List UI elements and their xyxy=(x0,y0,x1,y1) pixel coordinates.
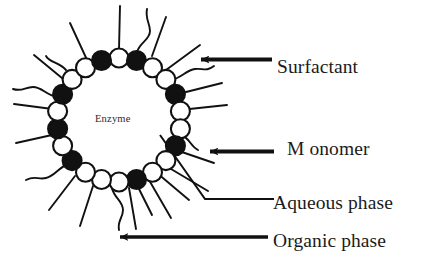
head-filled xyxy=(127,170,146,189)
surfactant-tail xyxy=(119,6,120,49)
surfactant-tail xyxy=(70,23,88,62)
monomer-tail xyxy=(13,87,57,97)
head-filled xyxy=(92,51,111,70)
surfactant-tail xyxy=(129,188,136,229)
reverse-micelle-diagram xyxy=(0,0,436,269)
enzyme-label: Enzyme xyxy=(95,114,131,125)
surfactant-tail xyxy=(166,45,200,70)
surfactant-tail xyxy=(149,180,171,218)
monomer-tail xyxy=(112,188,123,230)
head-open xyxy=(110,173,129,192)
head-open xyxy=(110,49,129,68)
organic-phase-label: Organic phase xyxy=(273,231,386,251)
aqueous-phase-label: Aqueous phase xyxy=(273,193,393,213)
surfactant-label: Surfactant xyxy=(277,57,358,77)
surfactant-tail xyxy=(80,186,93,226)
monomer-tail xyxy=(137,9,150,52)
monomer-label: M onomer xyxy=(287,139,370,159)
monomer-tail xyxy=(171,66,214,80)
monomer-tail xyxy=(26,164,68,180)
figure-canvas: Enzyme Surfactant M onomer Aqueous phase… xyxy=(0,0,436,269)
surfactant-tail xyxy=(166,166,208,191)
surfactant-tail xyxy=(49,176,75,210)
head-filled xyxy=(48,119,67,138)
head-open xyxy=(171,102,190,121)
annotation-pointers xyxy=(120,60,274,238)
surfactant-tail xyxy=(152,17,166,56)
